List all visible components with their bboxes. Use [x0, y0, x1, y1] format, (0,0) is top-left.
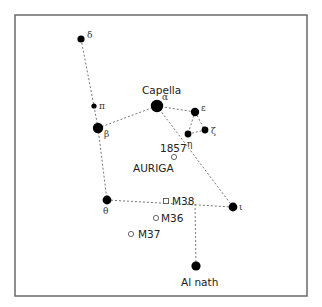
alnath-label: Al nath	[181, 276, 218, 288]
m36-label: M36	[161, 212, 184, 224]
star-zeta	[202, 127, 209, 134]
star-designation-delta: δ	[87, 30, 92, 40]
auriga-star-chart: δπβαεζηθι 1857M38M36M37 Capella Al nath …	[0, 0, 322, 307]
deep-sky-objects: 1857M38M36M37	[128, 142, 194, 240]
star-designation-zeta: ζ	[211, 126, 216, 136]
star-theta	[103, 196, 112, 205]
star-eta	[185, 131, 192, 138]
constellation-line	[157, 106, 233, 207]
star-designation-iota: ι	[239, 202, 243, 212]
star-designation-beta: β	[104, 129, 109, 139]
nova-1857-marker	[171, 154, 176, 159]
star-iota	[229, 203, 238, 212]
star-epsilon	[191, 108, 199, 116]
capella-label: Capella	[142, 84, 181, 96]
star-designation-theta: θ	[103, 206, 108, 216]
constellation-line	[81, 39, 94, 106]
star-designation-pi: π	[99, 101, 105, 111]
m36-marker	[153, 215, 158, 220]
nova-1857-label: 1857	[160, 142, 187, 154]
constellation-line	[107, 200, 233, 207]
star-pi	[91, 103, 96, 108]
m37-marker	[128, 231, 133, 236]
constellation-name-label: AURIGA	[133, 162, 174, 174]
star-beta	[93, 123, 103, 133]
m38-marker	[164, 199, 169, 204]
chart-frame	[15, 15, 307, 296]
constellation-line	[98, 106, 157, 128]
m38-label: M38	[172, 195, 194, 207]
star-alnath	[191, 261, 200, 270]
m37-label: M37	[138, 228, 160, 240]
star-designation-epsilon: ε	[201, 103, 206, 113]
star-delta	[77, 35, 84, 42]
star-designation-eta: η	[187, 139, 192, 149]
constellation-line	[195, 204, 196, 266]
